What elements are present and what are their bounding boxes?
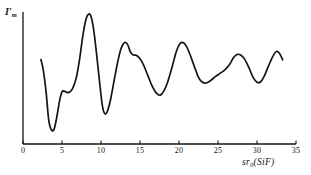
x-axis-title-tail: (SiF) [254, 157, 275, 167]
y-axis-title: I′m [5, 6, 17, 18]
figure-container: 05101520253035 I′m sr0(SiF) [0, 0, 311, 175]
data-layer [41, 14, 283, 131]
x-axis-title-main: sr [242, 157, 250, 167]
x-axis-tick-label: 0 [13, 146, 33, 156]
x-axis-title: sr0(SiF) [242, 157, 275, 168]
x-axis-tick-label: 15 [130, 146, 150, 156]
x-axis-tick-label: 20 [169, 146, 189, 156]
data-series-line [41, 14, 283, 131]
axis-group [23, 12, 296, 144]
x-axis-tick-label: 35 [286, 146, 306, 156]
y-axis-title-subscript: m [12, 11, 17, 18]
x-axis-tick-label: 5 [52, 146, 72, 156]
x-axis-tick-label: 10 [91, 146, 111, 156]
x-axis-tick-label: 30 [247, 146, 267, 156]
x-axis-tick-label: 25 [208, 146, 228, 156]
